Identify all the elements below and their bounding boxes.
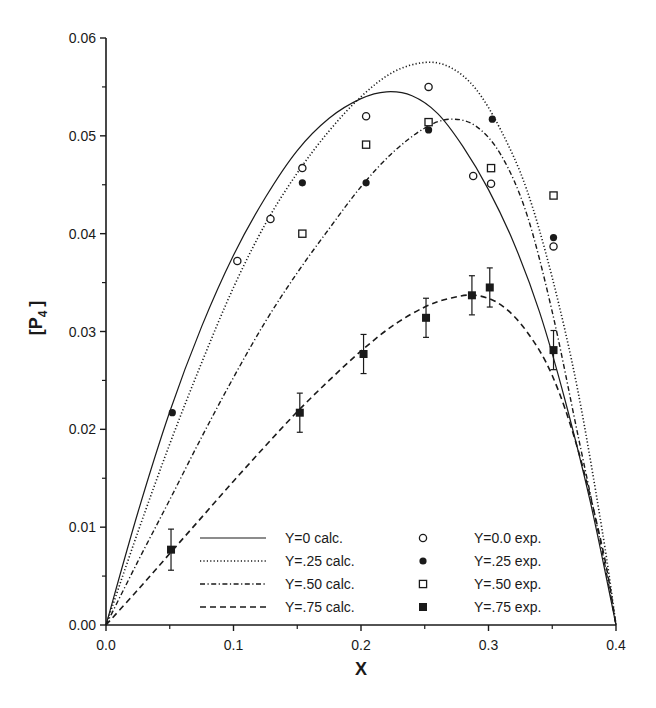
marker-open-square [425, 119, 432, 126]
marker-filled-square [167, 546, 175, 554]
marker-open-square [299, 230, 306, 237]
x-tick-label: 0.0 [96, 637, 116, 653]
legend-line-label: Y=.50 calc. [285, 576, 355, 592]
marker-filled-square [550, 346, 558, 354]
legend-marker-open-square [419, 580, 426, 587]
legend-marker-label: Y=.75 exp. [474, 599, 541, 615]
legend-marker-label: Y=0.0 exp. [474, 530, 541, 546]
y-tick-label: 0.02 [69, 421, 96, 437]
marker-filled-square [296, 409, 304, 417]
exp-markers [167, 83, 558, 570]
marker-filled-circle [489, 116, 496, 123]
y-tick-label: 0.05 [69, 128, 96, 144]
legend: Y=0 calc.Y=0.0 exp.Y=.25 calc.Y=.25 exp.… [200, 530, 541, 615]
marker-filled-square [486, 283, 494, 291]
marker-filled-circle [299, 179, 306, 186]
marker-open-circle [487, 180, 494, 187]
y-tick-label: 0.06 [69, 30, 96, 46]
marker-filled-square [422, 314, 430, 322]
x-tick-label: 0.1 [224, 637, 244, 653]
y-tick-label: 0.03 [69, 324, 96, 340]
marker-open-square [363, 141, 370, 148]
marker-open-circle [550, 243, 557, 250]
marker-open-circle [470, 172, 477, 179]
curve-dashdot [106, 119, 616, 625]
legend-marker-label: Y=.25 exp. [474, 553, 541, 569]
legend-marker-filled-circle [419, 557, 426, 564]
x-tick-label: 0.2 [351, 637, 371, 653]
y-tick-label: 0.04 [69, 226, 96, 242]
svg-text:[P4]: [P4] [26, 301, 50, 336]
y-axis-title: [P4] [26, 301, 50, 336]
y-axis-title-sub: 4 [36, 310, 50, 317]
legend-marker-label: Y=.50 exp. [474, 576, 541, 592]
marker-open-square [550, 192, 557, 199]
marker-filled-circle [169, 409, 176, 416]
y-axis-title-main: [P [26, 317, 46, 335]
marker-open-circle [234, 257, 241, 264]
legend-line-label: Y=.75 calc. [285, 599, 355, 615]
legend-line-label: Y=.25 calc. [285, 553, 355, 569]
y-tick-label: 0.00 [69, 617, 96, 633]
marker-open-circle [267, 215, 274, 222]
x-tick-label: 0.4 [606, 637, 626, 653]
marker-filled-circle [363, 179, 370, 186]
marker-filled-circle [425, 126, 432, 133]
marker-filled-square [360, 350, 368, 358]
x-tick-label: 0.3 [479, 637, 499, 653]
marker-open-square [487, 165, 494, 172]
y-axis-title-close: ] [26, 301, 46, 307]
legend-marker-open-circle [419, 534, 426, 541]
legend-line-label: Y=0 calc. [285, 530, 343, 546]
marker-open-circle [425, 83, 432, 90]
x-axis-title: X [355, 659, 367, 679]
marker-open-circle [299, 165, 306, 172]
legend-marker-filled-square [419, 603, 427, 611]
marker-filled-circle [550, 234, 557, 241]
chart-canvas: 0.00.10.20.30.40.000.010.020.030.040.050… [0, 0, 656, 708]
marker-filled-square [468, 291, 476, 299]
y-tick-label: 0.01 [69, 519, 96, 535]
marker-open-circle [363, 113, 370, 120]
